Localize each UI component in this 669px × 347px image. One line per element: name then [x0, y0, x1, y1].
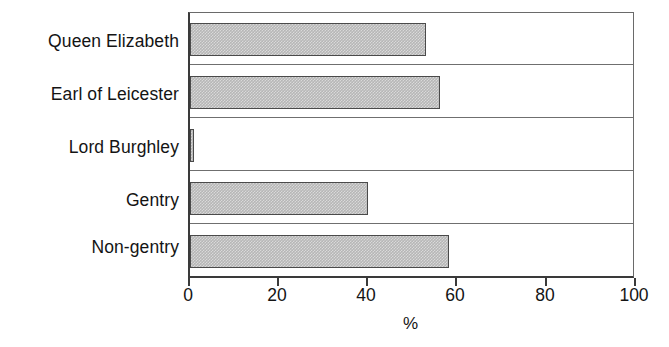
x-tick-label-80: 80 [535, 287, 554, 305]
bar-gentry [190, 182, 368, 215]
bar-chart: Queen Elizabeth Earl of Leicester Lord B… [0, 0, 669, 347]
category-label-non-gentry: Non-gentry [91, 239, 188, 257]
bar-lord-burghley [190, 129, 194, 162]
x-tick-label-40: 40 [356, 287, 375, 305]
category-separator-line [190, 64, 633, 65]
category-label-earl-of-leicester: Earl of Leicester [51, 86, 188, 104]
category-label-gentry: Gentry [126, 192, 188, 210]
bar-earl-of-leicester [190, 76, 440, 109]
category-separator-line [190, 170, 633, 171]
category-label-queen-elizabeth: Queen Elizabeth [48, 33, 188, 51]
category-separator-line [190, 223, 633, 224]
x-tick-label-60: 60 [445, 287, 464, 305]
category-separator-line [190, 117, 633, 118]
category-label-lord-burghley: Lord Burghley [69, 139, 188, 157]
bar-non-gentry [190, 235, 449, 268]
x-axis-title: % [403, 314, 418, 333]
plot-area [188, 12, 634, 278]
x-tick-label-20: 20 [267, 287, 286, 305]
x-tick-label-0: 0 [183, 287, 193, 305]
x-tick-label-100: 100 [619, 287, 648, 305]
x-axis-title-wrapper: % [0, 315, 669, 332]
bar-queen-elizabeth [190, 23, 426, 56]
